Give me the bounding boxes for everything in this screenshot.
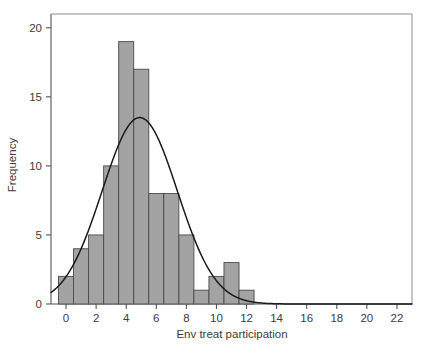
x-tick-label: 20 — [360, 312, 373, 324]
y-tick-label: 20 — [29, 22, 42, 34]
x-tick-label: 10 — [210, 312, 223, 324]
histogram-bar — [74, 249, 89, 304]
histogram-bar — [164, 194, 179, 304]
y-tick-label: 0 — [36, 298, 42, 310]
x-tick-label: 8 — [183, 312, 189, 324]
y-tick-label: 15 — [29, 91, 42, 103]
histogram-bar — [179, 235, 194, 304]
x-tick-label: 22 — [391, 312, 404, 324]
x-tick-label: 0 — [63, 312, 69, 324]
x-tick-label: 18 — [330, 312, 343, 324]
x-tick-label: 6 — [153, 312, 159, 324]
histogram-bar — [149, 194, 164, 304]
x-tick-label: 14 — [270, 312, 283, 324]
x-tick-label: 12 — [240, 312, 253, 324]
histogram-bar — [59, 276, 74, 304]
x-tick-label: 2 — [93, 312, 99, 324]
histogram-bar — [119, 42, 134, 304]
x-tick-label: 4 — [123, 312, 130, 324]
x-axis-title: Env treat participation — [176, 328, 287, 340]
histogram-bar — [104, 166, 119, 304]
x-tick-label: 16 — [300, 312, 313, 324]
y-tick-label: 5 — [36, 229, 42, 241]
y-tick-label: 10 — [29, 160, 42, 172]
histogram-figure: 05101520 0246810121416182022 Frequency E… — [0, 0, 433, 354]
histogram-bar — [134, 69, 149, 304]
histogram-chart: 05101520 0246810121416182022 Frequency E… — [0, 0, 433, 354]
histogram-bar — [89, 235, 104, 304]
histogram-bar — [194, 290, 209, 304]
y-axis-title: Frequency — [6, 138, 18, 193]
